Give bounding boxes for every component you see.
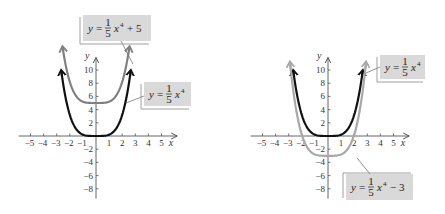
x-tick-label: 3 [365,138,370,148]
y-tick-label: −8 [83,184,93,194]
svg-text:y: y [87,22,93,34]
x-tick-label: −3 [283,138,293,148]
x-axis-label: x [400,137,406,148]
graph-panel-right: xy−5−4−3−2−112345−8−6−4−2246810y=15x4y=1… [251,50,425,200]
svg-text:4: 4 [181,87,185,95]
svg-text:4: 4 [383,180,387,188]
x-tick-label: 5 [391,138,396,148]
y-tick-label: 4 [89,105,94,115]
x-tick-label: 1 [339,138,344,148]
x-tick-label: 4 [378,138,383,148]
x-axis-label: x [168,137,174,148]
svg-text:=: = [157,88,163,100]
x-tick-label: 3 [133,138,138,148]
svg-text:5: 5 [105,27,111,39]
y-tick-label: 2 [321,118,326,128]
curve-arrow-icon [61,71,62,76]
svg-text:=: = [359,181,365,193]
x-tick-label: −4 [270,138,280,148]
y-tick-label: 6 [321,91,326,101]
svg-text:x: x [174,88,180,100]
x-tick-label: −4 [38,138,48,148]
x-tick-label: −5 [257,138,267,148]
svg-text:+ 5: + 5 [127,22,142,34]
equation-label: y=15x4+ 5 [80,15,151,64]
chart-canvas: xy−5−4−3−2−112345−8−6−4−2246810y=15x4+ 5… [0,0,445,214]
y-axis-label: y [84,50,90,61]
y-tick-label: 2 [89,118,94,128]
svg-text:x: x [376,181,382,193]
svg-text:y: y [350,181,356,193]
curve-arrow-icon [365,62,366,68]
y-tick-label: 6 [89,91,94,101]
y-tick-label: −6 [83,171,93,181]
y-tick-label: 4 [321,105,326,115]
y-tick-label: −6 [315,171,325,181]
x-tick-label: −2 [64,138,74,148]
svg-text:5: 5 [402,66,408,78]
curve-arrow-icon [129,47,130,51]
curve-arrow-icon [362,71,363,76]
svg-text:5: 5 [166,93,172,105]
x-tick-label: 4 [146,138,151,148]
curve-arrow-icon [63,47,64,51]
svg-text:x: x [113,22,119,34]
svg-text:4: 4 [120,21,124,29]
x-tick-label: 1 [107,138,112,148]
equation-label: y=15x4 [366,55,425,82]
svg-text:=: = [393,61,399,73]
y-tick-label: −2 [315,144,325,154]
y-tick-label: −2 [83,144,93,154]
curve-arrow-icon [293,71,294,76]
curve-arrow-icon [290,62,291,68]
svg-text:4: 4 [417,60,421,68]
y-tick-label: 8 [89,78,94,88]
y-tick-label: 8 [321,78,326,88]
graph-panel-left: xy−5−4−3−2−112345−8−6−4−2246810y=15x4+ 5… [19,15,191,199]
svg-text:=: = [96,22,102,34]
x-tick-label: 2 [120,138,125,148]
x-tick-label: −3 [51,138,61,148]
equation-label: y=15x4− 3 [343,158,413,200]
y-tick-label: 10 [84,65,94,75]
equation-label: y=15x4 [126,82,191,109]
y-tick-label: −4 [83,157,93,167]
x-tick-label: 5 [159,138,164,148]
svg-text:y: y [148,88,154,100]
y-axis-label: y [316,50,322,61]
curve-arrow-icon [130,71,131,76]
x-tick-label: −5 [25,138,35,148]
y-tick-label: 10 [316,65,326,75]
y-tick-label: −4 [315,157,325,167]
svg-text:x: x [410,61,416,73]
svg-text:5: 5 [368,186,374,198]
svg-text:y: y [384,61,390,73]
svg-text:− 3: − 3 [390,181,405,193]
y-tick-label: −8 [315,184,325,194]
